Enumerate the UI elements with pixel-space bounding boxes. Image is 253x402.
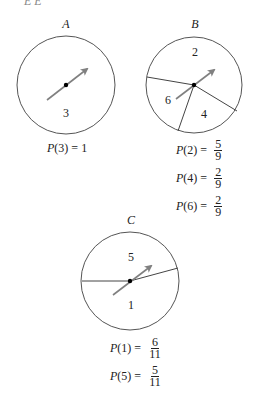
prob-eq: =	[131, 341, 144, 356]
prob-arg: (3)	[54, 141, 68, 156]
prob-eq: =	[197, 171, 210, 186]
prob-symbol: P	[47, 141, 54, 156]
spinner-b-sector-4: 4	[201, 107, 207, 122]
prob-symbol: P	[176, 199, 183, 214]
fraction-denominator: 11	[148, 377, 162, 388]
prob-eq: =	[68, 141, 81, 156]
spinner-b-sector-2: 2	[192, 45, 198, 60]
fraction-denominator: 9	[214, 179, 222, 190]
spinner-c-probability-5: P(5) = 511	[110, 365, 162, 388]
spinner-b-title: B	[191, 17, 198, 32]
prob-symbol: P	[110, 341, 117, 356]
spinner-b-divider-1	[147, 77, 194, 85]
spinner-a-probability-3: P(3) = 1	[47, 141, 87, 156]
prob-fraction: 59	[214, 139, 222, 162]
spinner-a-title: A	[62, 17, 69, 32]
spinner-b-hub	[192, 83, 196, 87]
spinner-b-sector-6: 6	[165, 93, 171, 108]
prob-fraction: 511	[148, 365, 162, 388]
spinner-a-sector-3: 3	[63, 106, 69, 121]
spinner-c-probability-1: P(1) = 611	[110, 337, 162, 360]
prob-fraction: 29	[214, 195, 222, 218]
prob-arg: (5)	[117, 369, 131, 384]
spinner-b-probability-4: P(4) = 29	[176, 167, 222, 190]
prob-fraction: 611	[148, 337, 162, 360]
spinner-b-probability-6: P(6) = 29	[176, 195, 222, 218]
spinner-b-probability-2: P(2) = 59	[176, 139, 222, 162]
prob-symbol: P	[176, 171, 183, 186]
spinner-c-divider-2	[130, 268, 178, 281]
prob-symbol: P	[176, 143, 183, 158]
prob-eq: =	[131, 369, 144, 384]
spinner-c-sector-1: 1	[128, 298, 134, 313]
spinner-c-sector-5: 5	[128, 250, 134, 265]
spinner-c-hub	[128, 279, 132, 283]
prob-arg: (2)	[183, 143, 197, 158]
fraction-denominator: 9	[214, 151, 222, 162]
prob-arg: (1)	[117, 341, 131, 356]
prob-fraction: 29	[214, 167, 222, 190]
prob-arg: (6)	[183, 199, 197, 214]
prob-eq: =	[197, 143, 210, 158]
prob-symbol: P	[110, 369, 117, 384]
spinner-c-title: C	[127, 213, 135, 228]
fraction-denominator: 9	[214, 207, 222, 218]
spinner-a-hub	[64, 83, 68, 87]
prob-arg: (4)	[183, 171, 197, 186]
prob-eq: =	[197, 199, 210, 214]
fraction-denominator: 11	[148, 349, 162, 360]
prob-value: 1	[81, 141, 87, 156]
spinner-c	[81, 232, 179, 330]
